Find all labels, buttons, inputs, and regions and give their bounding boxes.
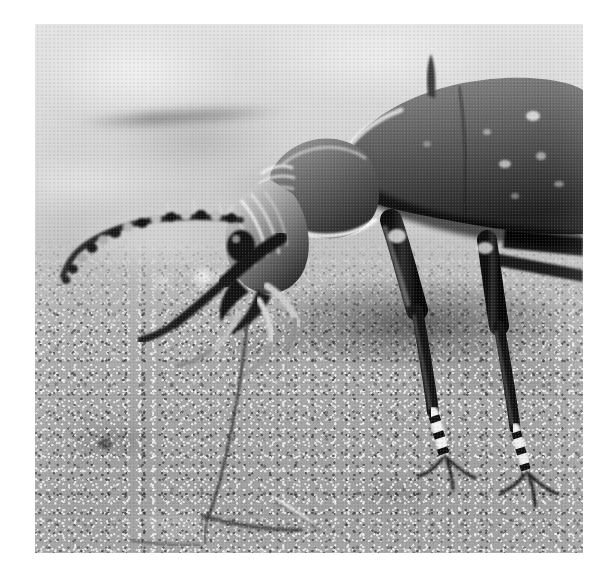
hindleg-claws — [501, 472, 557, 506]
page-root — [0, 0, 616, 575]
photograph — [35, 24, 583, 553]
ground-speck — [98, 439, 112, 449]
antenna-left — [62, 210, 242, 284]
hindleg-trochanter-highlight — [477, 242, 493, 254]
foreleg-tarsus — [141, 324, 175, 340]
eye-highlight — [232, 235, 240, 243]
midleg-claws — [419, 456, 475, 490]
beetle-illustration — [35, 24, 583, 553]
ground-twig-small — [131, 540, 199, 545]
ground-grass-shadow — [275, 502, 319, 530]
midleg-trochanter-highlight — [388, 229, 406, 243]
dorsal-spine — [427, 54, 435, 98]
hindleg-tarsus — [515, 428, 527, 470]
foreleg-tibia — [175, 280, 227, 324]
midleg-tarsus — [433, 412, 445, 454]
ground-twig — [203, 516, 301, 530]
ground-grass-blade — [271, 494, 319, 528]
antenna-trailing-tip — [205, 520, 207, 544]
